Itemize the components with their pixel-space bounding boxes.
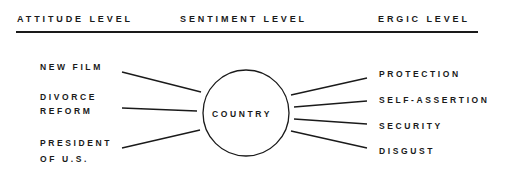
connector-disgust bbox=[291, 131, 367, 148]
attitude-reform: REFORM bbox=[40, 107, 92, 116]
attitude-divorce: DIVORCE bbox=[40, 93, 97, 102]
attitude-president: PRESIDENT bbox=[40, 139, 112, 148]
attitude-of-us: OF U.S. bbox=[40, 155, 89, 164]
header-ergic-level: ERGIC LEVEL bbox=[378, 15, 470, 24]
erg-protection: PROTECTION bbox=[379, 70, 461, 79]
connector-protection bbox=[291, 78, 367, 95]
connector-president bbox=[122, 130, 200, 148]
erg-security: SECURITY bbox=[379, 122, 443, 131]
connector-new-film bbox=[122, 72, 201, 92]
connector-security bbox=[294, 119, 367, 124]
header-sentiment-level: SENTIMENT LEVEL bbox=[180, 15, 307, 24]
erg-self-assertion: SELF-ASSERTION bbox=[379, 96, 490, 105]
connector-divorce-reform bbox=[122, 108, 197, 111]
attitude-new-film: NEW FILM bbox=[40, 63, 103, 72]
connector-self-assertion bbox=[294, 101, 367, 107]
sentiment-country: COUNTRY bbox=[212, 110, 272, 119]
header-attitude-level: ATTITUDE LEVEL bbox=[17, 15, 133, 24]
erg-disgust: DISGUST bbox=[379, 147, 435, 156]
